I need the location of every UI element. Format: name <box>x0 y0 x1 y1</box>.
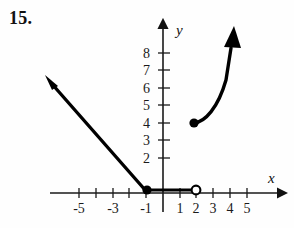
x-tick-label--1: -1 <box>140 201 152 216</box>
x-tick-label-1: 1 <box>177 201 184 216</box>
y-tick-label-2: 2 <box>143 151 150 166</box>
coordinate-graph: -5 -3 -1 1 2 3 4 5 2 3 4 5 6 7 8 y x <box>0 0 294 228</box>
endpoint-markers <box>142 118 200 194</box>
x-tick-label-3: 3 <box>210 201 217 216</box>
x-tick-label-2: 2 <box>193 201 200 216</box>
x-axis-label: x <box>267 170 275 186</box>
closed-dot-at-neg1-0 <box>142 185 151 194</box>
y-tick-label-5: 5 <box>143 98 150 113</box>
x-tick-label-4: 4 <box>227 201 234 216</box>
y-tick-label-8: 8 <box>143 46 150 61</box>
y-tick-label-6: 6 <box>143 81 150 96</box>
x-axis-tick-labels: -5 -3 -1 1 2 3 4 5 <box>73 201 250 216</box>
open-circle-at-2-0 <box>192 186 201 195</box>
y-tick-label-4: 4 <box>143 116 150 131</box>
right-curve-path <box>194 48 231 123</box>
x-tick-label--5: -5 <box>73 201 85 216</box>
x-tick-label--3: -3 <box>107 201 119 216</box>
y-axis-label: y <box>174 22 183 38</box>
function-branch-right-curve <box>194 26 241 123</box>
y-tick-label-7: 7 <box>143 63 150 78</box>
x-tick-label-5: 5 <box>244 201 251 216</box>
y-axis-ticks <box>158 53 170 158</box>
figure-root: 15. <box>0 0 294 228</box>
function-branch-left-ray <box>45 75 146 191</box>
left-ray-line <box>52 84 146 191</box>
y-tick-label-3: 3 <box>143 133 150 148</box>
right-curve-arrowhead <box>224 26 241 48</box>
closed-dot-at-2-4 <box>189 118 198 127</box>
y-axis-tick-labels: 2 3 4 5 6 7 8 <box>143 46 150 166</box>
